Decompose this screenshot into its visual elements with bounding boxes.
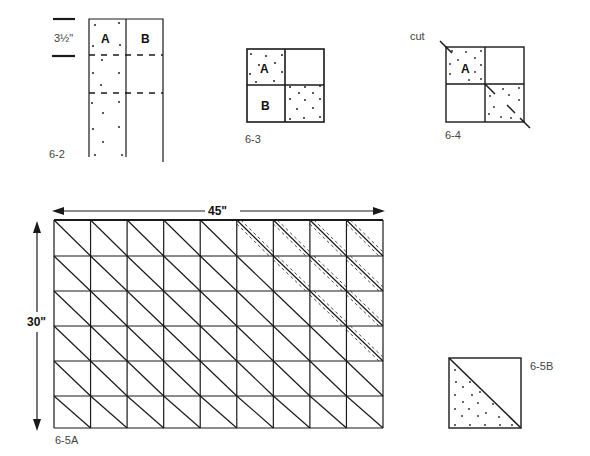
cell-diagonal [200, 396, 237, 428]
width-dimension-label: 45" [208, 204, 227, 218]
cell-diagonal [237, 256, 274, 291]
seam-line-upper [314, 220, 347, 252]
cell-diagonal [310, 291, 347, 326]
cell-diagonal [273, 291, 310, 326]
arrowhead-left-icon [52, 207, 64, 215]
seam-line-upper [277, 220, 310, 252]
square-a-label: A [260, 62, 269, 76]
figure-6-3: A B 6-3 [245, 49, 324, 145]
cell-diagonal [54, 396, 91, 428]
seam-line-upper [314, 291, 347, 322]
cell-diagonal [127, 291, 164, 326]
figure-caption-6-5a: 6-5A [55, 434, 79, 446]
cell-diagonal [91, 396, 128, 428]
seam-line-upper [241, 220, 274, 252]
cell-diagonal [346, 326, 383, 361]
cell-diagonal [127, 396, 164, 428]
cell-diagonal [164, 396, 201, 428]
seam-line-upper [314, 256, 347, 287]
cell-diagonal [54, 220, 91, 256]
cell-diagonal [127, 256, 164, 291]
cell-diagonal [164, 256, 201, 291]
cell-diagonal [310, 396, 347, 428]
cell-diagonal [346, 291, 383, 326]
figure-6-2: 3½" A B 6-2 [49, 19, 163, 162]
seam-line-upper [350, 326, 383, 357]
seam-line-lower [310, 260, 343, 291]
cut-line-mid-1 [485, 84, 495, 94]
cell-diagonal [200, 220, 237, 256]
seam-line-lower [346, 260, 379, 291]
cell-diagonal [54, 361, 91, 396]
cell-diagonal [164, 326, 201, 361]
arrowhead-down-icon [33, 419, 41, 431]
cell-diagonal [273, 220, 310, 256]
cell-diagonal [91, 220, 128, 256]
cell-diagonal [237, 361, 274, 396]
measure-label: 3½" [54, 32, 73, 44]
seam-line-lower [273, 224, 306, 256]
cell-diagonal [54, 326, 91, 361]
strip-b-label: B [141, 32, 150, 46]
cell-diagonal [200, 326, 237, 361]
arrowhead-up-icon [33, 221, 41, 233]
cell-diagonal [127, 220, 164, 256]
figure-caption-6-4: 6-4 [445, 129, 461, 141]
seam-line-upper [350, 256, 383, 287]
cell-diagonal [237, 291, 274, 326]
cut-label: cut [410, 30, 425, 42]
cell-diagonal [237, 220, 274, 256]
cell-diagonal [91, 291, 128, 326]
cell-diagonal [237, 396, 274, 428]
seam-line-lower [346, 330, 379, 361]
cell-diagonal [310, 256, 347, 291]
cut-line-mid-2 [507, 105, 515, 113]
cell-diagonal [346, 361, 383, 396]
cell-diagonal [164, 220, 201, 256]
cell-diagonal [127, 326, 164, 361]
cell-diagonal [273, 361, 310, 396]
figure-6-5b: 6-5B [449, 358, 553, 428]
half-square-triangle-grid [54, 220, 383, 428]
cell-diagonal [273, 396, 310, 428]
figure-6-5a: 45" 30" 6-5A [27, 204, 385, 446]
seam-line-lower [310, 224, 343, 256]
figure-caption-6-2: 6-2 [49, 148, 65, 160]
cell-diagonal [91, 361, 128, 396]
figure-caption-6-5b: 6-5B [530, 360, 553, 372]
cell-diagonal [127, 361, 164, 396]
seam-line-lower [310, 295, 343, 326]
cell-diagonal [54, 256, 91, 291]
cell-diagonal [200, 256, 237, 291]
cell-diagonal [91, 256, 128, 291]
cell-diagonal [310, 220, 347, 256]
cell-diagonal [200, 291, 237, 326]
cell-diagonal [346, 220, 383, 256]
cut-line-end [520, 118, 530, 128]
height-dimension-label: 30" [27, 315, 46, 329]
cell-diagonal [346, 396, 383, 428]
figure-6-4: A cut 6-4 [410, 30, 530, 141]
square-a-label: A [461, 62, 470, 76]
seam-line-upper [350, 291, 383, 322]
quilt-diagram-canvas: 3½" A B 6-2 [0, 0, 590, 456]
fabric-print-dots [454, 369, 513, 426]
square-b-label: B [261, 99, 270, 113]
seam-line-lower [237, 224, 270, 256]
seam-line-lower [346, 295, 379, 326]
seam-line-upper [277, 256, 310, 287]
cell-diagonal [310, 361, 347, 396]
strip-a-label: A [101, 32, 110, 46]
seam-line-lower [346, 224, 379, 256]
seam-line-upper [350, 220, 383, 252]
cell-diagonal [200, 361, 237, 396]
cell-diagonal [310, 326, 347, 361]
cell-diagonal [346, 256, 383, 291]
figure-caption-6-3: 6-3 [245, 133, 261, 145]
arrowhead-right-icon [373, 207, 385, 215]
cell-diagonal [164, 361, 201, 396]
cell-diagonal [164, 291, 201, 326]
cell-diagonal [273, 256, 310, 291]
triangle-diagonal [449, 358, 521, 428]
cell-diagonal [91, 326, 128, 361]
